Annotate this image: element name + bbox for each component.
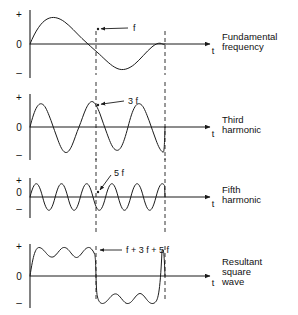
axis-plus-label: + — [16, 9, 22, 20]
annotation-anchor-dot — [97, 191, 99, 193]
time-axis-label: t — [212, 129, 215, 139]
axis-plus-label: + — [16, 175, 22, 186]
axis-minus-label: – — [16, 67, 22, 78]
annotation-anchor-dot — [97, 28, 99, 30]
axis-zero-label: 0 — [16, 122, 22, 133]
time-axis-label: t — [212, 46, 215, 56]
time-axis-label: t — [212, 278, 215, 288]
figure-canvas: + 0 – t f Fundamental frequency + 0 – t — [0, 0, 298, 315]
annotation-f: f — [133, 23, 136, 33]
annotation-leader — [100, 175, 111, 190]
time-axis-label: t — [212, 199, 215, 209]
axis-minus-label: – — [16, 149, 22, 160]
panel-third-harmonic: + 0 – t 3 f Third harmonic — [16, 82, 261, 160]
axis-minus-label: – — [16, 203, 22, 214]
annotation-anchor-dot — [97, 104, 99, 106]
panel-resultant-square-wave: + 0 – t f + 3 f + 5 f Resultant square w… — [16, 241, 262, 308]
fourier-square-wave-figure: + 0 – t f Fundamental frequency + 0 – t — [0, 0, 298, 315]
annotation-5f: 5 f — [114, 168, 125, 178]
axis-zero-label: 0 — [16, 271, 22, 282]
panel-title-line2: harmonic — [222, 124, 261, 135]
panel-fifth-harmonic: + 0 – t 5 f Fifth harmonic — [16, 158, 261, 233]
axis-zero-label: 0 — [16, 187, 22, 198]
annotation-sum: f + 3 f + 5 f — [126, 245, 170, 255]
annotation-leader — [101, 101, 124, 104]
axis-zero-label: 0 — [16, 39, 22, 50]
axis-plus-label: + — [16, 241, 22, 252]
panel-title-line3: wave — [221, 276, 244, 287]
panel-title-line2: frequency — [222, 41, 264, 52]
annotation-3f: 3 f — [128, 96, 139, 106]
axis-minus-label: – — [16, 297, 22, 308]
panel-title-line2: harmonic — [222, 194, 261, 205]
axis-plus-label: + — [16, 92, 22, 103]
panel-fundamental: + 0 – t f Fundamental frequency — [16, 9, 277, 78]
annotation-leader — [101, 28, 128, 29]
